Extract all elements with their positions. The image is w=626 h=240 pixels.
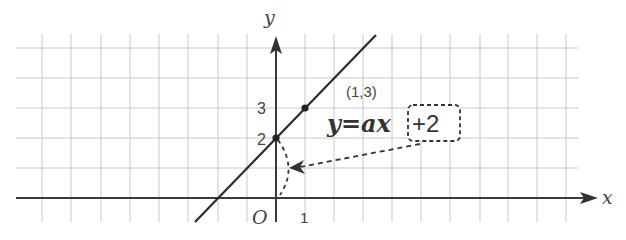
tick-label-y-3: 3	[257, 100, 266, 117]
equation-highlight: +2	[412, 110, 439, 137]
tick-label-y-2: 2	[257, 131, 266, 148]
tick-label-x-1: 1	[300, 209, 308, 226]
y-axis-label: y	[263, 6, 275, 28]
origin-label: O	[252, 206, 268, 228]
point-label-1-3: (1,3)	[346, 83, 377, 100]
x-axis-label: x	[602, 186, 613, 208]
dashed-arrow	[300, 144, 420, 167]
equation-main: y=ax	[326, 109, 392, 138]
grid	[16, 34, 578, 222]
point-1-3	[301, 104, 308, 111]
coordinate-diagram: y x O 1 2 3 (1,3) y=ax +2	[0, 0, 626, 240]
graph-canvas: y x O 1 2 3 (1,3) y=ax +2	[0, 0, 626, 240]
x-axis	[16, 192, 598, 204]
